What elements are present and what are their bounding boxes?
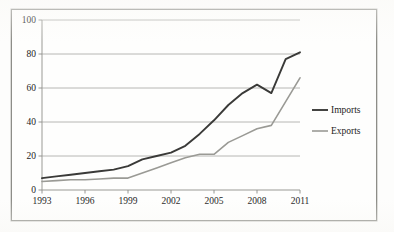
y-tick-label-80: 80 <box>27 49 37 59</box>
line-chart: 020406080100 199319961999200220052008201… <box>0 0 394 232</box>
y-tick-label-20: 20 <box>27 151 37 161</box>
x-tick-label-2005: 2005 <box>205 196 224 206</box>
x-tick-label-2008: 2008 <box>248 196 267 206</box>
figure-root: 020406080100 199319961999200220052008201… <box>0 0 394 232</box>
series-line-exports <box>42 78 300 182</box>
x-tick-label-1996: 1996 <box>76 196 95 206</box>
y-tick-label-40: 40 <box>27 117 37 127</box>
data-series-group <box>42 52 300 181</box>
x-tick-label-2011: 2011 <box>291 196 310 206</box>
y-tick-label-0: 0 <box>31 185 36 195</box>
series-line-imports <box>42 52 300 178</box>
x-tick-label-1999: 1999 <box>119 196 138 206</box>
x-tick-label-2002: 2002 <box>162 196 181 206</box>
y-axis-ticks <box>39 20 43 190</box>
legend-label-exports: Exports <box>331 126 361 136</box>
legend-label-imports: Imports <box>331 105 361 115</box>
chart-legend: ImportsExports <box>312 105 361 136</box>
y-tick-label-100: 100 <box>22 15 37 25</box>
y-tick-label-60: 60 <box>27 83 37 93</box>
x-tick-label-1993: 1993 <box>33 196 52 206</box>
x-axis-ticks <box>42 190 300 194</box>
y-axis-tick-labels: 020406080100 <box>22 15 37 195</box>
x-axis-tick-labels: 1993199619992002200520082011 <box>33 196 310 206</box>
